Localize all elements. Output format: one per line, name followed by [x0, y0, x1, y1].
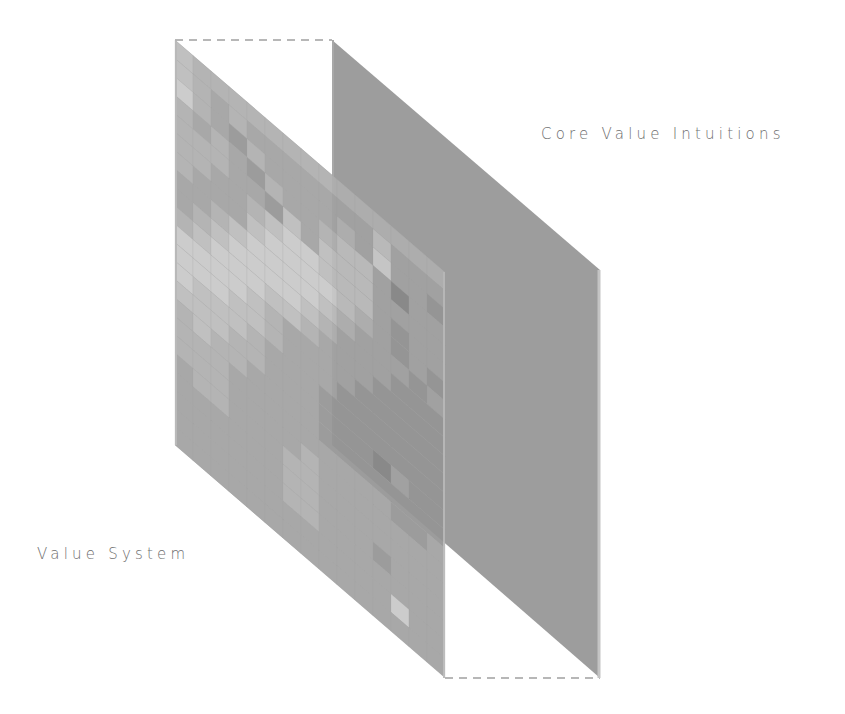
core-value-intuitions-label: Core Value Intuitions — [541, 125, 785, 143]
value-system-label: Value System — [37, 545, 189, 563]
diagram-canvas — [0, 0, 845, 714]
